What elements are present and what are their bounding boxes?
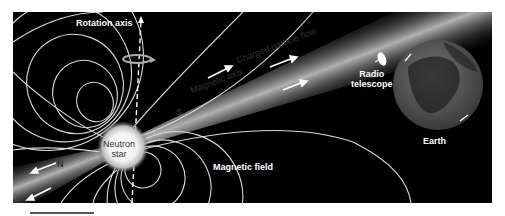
pulsar-diagram: Rotation axis Neutron star Magnetic axis… bbox=[13, 12, 492, 203]
label-radio-telescope: Radio telescope bbox=[351, 69, 393, 89]
rotation-axis-line bbox=[132, 20, 141, 203]
caption-rule bbox=[30, 212, 94, 214]
earth bbox=[393, 40, 483, 130]
label-south-pole: S bbox=[176, 107, 182, 117]
label-neutron-star-line1: Neutron bbox=[103, 139, 135, 149]
label-radio-telescope-line2: telescope bbox=[351, 79, 393, 89]
rotation-axis-arrowhead bbox=[138, 16, 144, 23]
label-rotation-axis: Rotation axis bbox=[76, 18, 133, 28]
label-neutron-star: Neutron star bbox=[103, 139, 135, 159]
label-magnetic-field: Magnetic field bbox=[213, 162, 273, 172]
label-north-pole: N bbox=[57, 159, 64, 169]
label-neutron-star-line2: star bbox=[103, 149, 135, 159]
label-radio-telescope-line1: Radio bbox=[351, 69, 393, 79]
diagram-graphics bbox=[13, 12, 492, 203]
label-earth: Earth bbox=[423, 136, 446, 146]
